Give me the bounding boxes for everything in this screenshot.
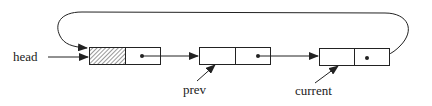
- node-3-data-cell: [320, 49, 355, 66]
- linked-list-diagram: head prev current: [0, 0, 432, 106]
- current-label: current: [295, 83, 332, 98]
- node-3: [320, 49, 390, 66]
- node-3-pointer-dot: [365, 56, 369, 60]
- node-3-next-cell: [355, 49, 390, 66]
- prev-label: prev: [183, 82, 207, 97]
- node-1-data-cell: [90, 48, 126, 65]
- node-2-data-cell: [200, 48, 236, 65]
- head-label: head: [13, 49, 38, 64]
- prev-pointer-arrow: [197, 65, 215, 81]
- current-pointer-arrow: [315, 66, 338, 83]
